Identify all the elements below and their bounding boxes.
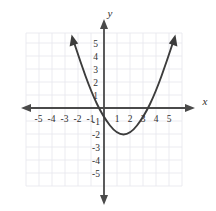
x-tick-label: -4 [48,114,56,124]
y-tick-label: -3 [92,143,100,153]
x-tick-label: 5 [167,114,172,124]
y-tick-label: 1 [93,91,98,101]
parabola-right-arrow-icon [169,35,178,47]
y-tick-labels-positive: 5 4 3 2 1 [93,39,98,101]
y-tick-label: -1 [92,117,100,127]
y-tick-label: 3 [93,65,98,75]
x-tick-label: -5 [35,114,43,124]
x-axis-label: x [202,95,208,107]
y-tick-label: -2 [92,130,100,140]
coordinate-plane-figure: -5 -4 -3 -2 -1 1 2 3 4 5 5 4 3 2 1 -1 -2… [0,0,216,211]
y-axis-label: y [107,7,113,19]
y-axis-arrow-up-icon [100,19,108,29]
x-tick-label: -3 [61,114,69,124]
x-tick-label: 3 [141,114,146,124]
y-tick-labels-negative: -1 -2 -3 -4 -5 [92,117,100,179]
y-axis-arrow-down-icon [100,195,108,205]
x-tick-label: 2 [128,114,133,124]
y-tick-label: -5 [92,169,100,179]
y-tick-label: -4 [92,156,100,166]
x-tick-label: -2 [74,114,82,124]
x-tick-labels-negative: -5 -4 -3 -2 -1 [35,114,95,124]
y-tick-label: 4 [93,52,98,62]
x-axis-arrow-right-icon [185,104,195,112]
graph-canvas: -5 -4 -3 -2 -1 1 2 3 4 5 5 4 3 2 1 -1 -2… [0,0,216,211]
x-tick-label: 4 [154,114,159,124]
x-tick-labels-positive: 1 2 3 4 5 [115,114,172,124]
y-tick-label: 5 [93,39,98,49]
parabola-left-arrow-icon [70,35,79,47]
x-tick-label: 1 [115,114,120,124]
y-tick-label: 2 [93,78,98,88]
